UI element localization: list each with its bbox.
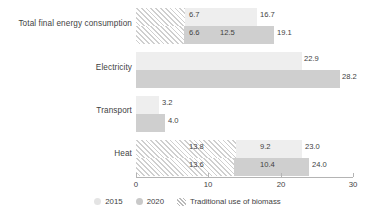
segment-2020 bbox=[136, 114, 165, 132]
x-axis-line bbox=[136, 177, 353, 178]
x-axis-tick-20 bbox=[281, 173, 282, 177]
value-label-tfec-2020-biomass: 6.6 bbox=[189, 24, 200, 42]
bar-electricity-2015 bbox=[136, 52, 302, 70]
value-label-heat-2020-modern: 10.4 bbox=[260, 156, 275, 174]
segment-2020 bbox=[136, 70, 340, 88]
value-label-heat-2015-total: 23.0 bbox=[305, 138, 320, 156]
value-label-heat-2015-biomass: 13.8 bbox=[189, 138, 204, 156]
legend-label-2020: 2020 bbox=[147, 197, 164, 206]
category-label-transport: Transport bbox=[0, 106, 132, 115]
legend-item-2020[interactable]: 2020 bbox=[136, 197, 164, 206]
category-label-heat: Heat bbox=[0, 149, 132, 158]
x-axis-label-10: 10 bbox=[204, 180, 213, 189]
bar-transport-2020 bbox=[136, 114, 165, 132]
category-label-electricity: Electricity bbox=[0, 63, 132, 72]
segment-biomass bbox=[136, 140, 236, 158]
bar-heat-2015 bbox=[136, 140, 302, 158]
value-label-heat-2020-total: 24.0 bbox=[312, 156, 327, 174]
bar-heat-2020 bbox=[136, 158, 310, 176]
category-label-total-final-energy-consumption: Total final energy consumption bbox=[0, 19, 132, 28]
value-label-transport-2015-total: 3.2 bbox=[162, 94, 173, 112]
legend-label-2015: 2015 bbox=[105, 197, 122, 206]
segment-2015 bbox=[136, 52, 302, 70]
bar-transport-2015 bbox=[136, 96, 159, 114]
value-label-electricity-2020-total: 28.2 bbox=[342, 68, 357, 86]
x-axis-tick-0 bbox=[136, 173, 137, 177]
value-label-tfec-2015-biomass: 6.7 bbox=[189, 6, 200, 24]
value-label-tfec-2020-modern: 12.5 bbox=[220, 24, 235, 42]
value-label-electricity-2015-total: 22.9 bbox=[304, 50, 319, 68]
x-axis-label-0: 0 bbox=[134, 180, 138, 189]
x-axis-label-30: 30 bbox=[349, 180, 358, 189]
x-axis-label-20: 20 bbox=[277, 180, 286, 189]
bar-chart: Total final energy consumption Electrici… bbox=[0, 0, 375, 216]
segment-biomass bbox=[136, 158, 234, 176]
legend: 2015 2020 Traditional use of biomass bbox=[0, 197, 375, 206]
legend-item-2015[interactable]: 2015 bbox=[94, 197, 122, 206]
legend-item-traditional-biomass[interactable]: Traditional use of biomass bbox=[177, 197, 281, 206]
value-label-heat-2015-modern: 9.2 bbox=[260, 138, 271, 156]
plot-area: 6.7 16.7 6.6 12.5 19.1 22.9 28.2 3.2 4.0 bbox=[136, 0, 353, 180]
value-label-heat-2020-biomass: 13.6 bbox=[189, 156, 204, 174]
x-axis-tick-30 bbox=[353, 173, 354, 177]
value-label-tfec-2020-total: 19.1 bbox=[277, 24, 292, 42]
value-label-tfec-2015-total: 16.7 bbox=[260, 6, 275, 24]
legend-swatch-hatch-icon bbox=[177, 198, 186, 206]
segment-2015 bbox=[136, 96, 159, 114]
value-label-transport-2020-total: 4.0 bbox=[168, 112, 179, 130]
x-axis-tick-10 bbox=[208, 173, 209, 177]
bar-tfec-2020 bbox=[136, 26, 274, 44]
legend-swatch-2020-icon bbox=[136, 198, 143, 205]
segment-biomass bbox=[136, 26, 184, 44]
segment-biomass bbox=[136, 8, 185, 26]
legend-swatch-2015-icon bbox=[94, 198, 101, 205]
legend-label-traditional-biomass: Traditional use of biomass bbox=[190, 197, 281, 206]
bar-electricity-2020 bbox=[136, 70, 340, 88]
